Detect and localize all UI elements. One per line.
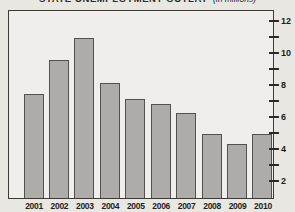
- y-tick-label-4: 4: [281, 144, 295, 155]
- x-tick-label-2008: 2008: [198, 201, 226, 211]
- y-tick-12: [269, 20, 279, 22]
- x-tick-label-2002: 2002: [45, 201, 73, 211]
- chart-title-text: STATE UNEMPLOYMENT OUTLAY: [39, 0, 208, 4]
- bar-2010: [252, 134, 272, 198]
- y-tick-label-6: 6: [281, 112, 295, 123]
- x-tick-label-2001: 2001: [20, 201, 48, 211]
- x-tick-label-2005: 2005: [122, 201, 150, 211]
- bar-2004: [100, 83, 120, 198]
- bar-2005: [125, 99, 145, 198]
- y-tick-8: [269, 84, 279, 86]
- y-tick-label-8: 8: [281, 80, 295, 91]
- bar-2001: [24, 94, 44, 198]
- x-tick-label-2006: 2006: [147, 201, 175, 211]
- y-tick-label-2: 2: [281, 176, 295, 187]
- y-tick-2: [269, 180, 279, 182]
- y-tick-11: [269, 36, 279, 38]
- y-tick-9: [269, 68, 279, 70]
- y-tick-5: [269, 132, 279, 134]
- y-tick-10: [269, 52, 279, 54]
- bar-2006: [151, 104, 171, 198]
- x-tick-label-2009: 2009: [224, 201, 252, 211]
- y-tick-label-12: 12: [281, 16, 295, 27]
- y-tick-6: [269, 116, 279, 118]
- x-tick-label-2010: 2010: [249, 201, 277, 211]
- chart-title-qualifier: (in millions): [213, 0, 256, 4]
- y-tick-4: [269, 148, 279, 150]
- x-tick-label-2003: 2003: [71, 201, 99, 211]
- y-tick-3: [269, 164, 279, 166]
- chart-title: STATE UNEMPLOYMENT OUTLAY (in millions): [0, 0, 295, 4]
- bar-2007: [176, 113, 196, 198]
- x-axis-labels: 2001200220032004200520062007200820092010: [0, 201, 295, 212]
- bar-2003: [74, 38, 94, 198]
- bar-2008: [202, 134, 222, 198]
- plot-area: [8, 10, 274, 199]
- bars-group: [9, 11, 273, 198]
- bar-2009: [227, 144, 247, 198]
- x-tick-label-2007: 2007: [173, 201, 201, 211]
- y-tick-7: [269, 100, 279, 102]
- x-tick-label-2004: 2004: [96, 201, 124, 211]
- bar-2002: [49, 60, 69, 198]
- y-tick-label-10: 10: [281, 48, 295, 59]
